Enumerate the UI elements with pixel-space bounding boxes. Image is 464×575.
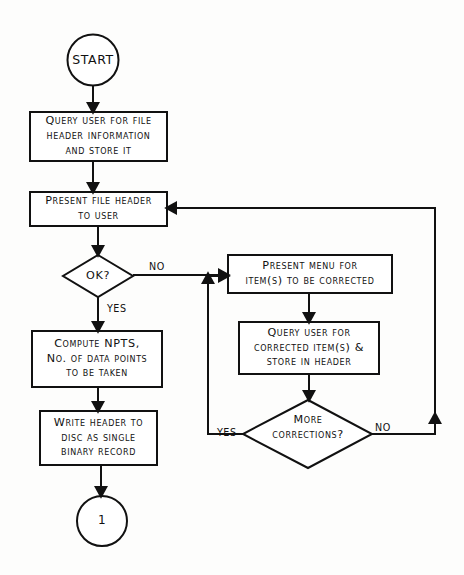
present-menu-box[interactable] xyxy=(228,255,392,293)
flowchart-page: START Query user for file header informa… xyxy=(0,0,464,575)
more-corrections-decision[interactable] xyxy=(243,400,372,468)
present-header-box[interactable] xyxy=(30,192,167,226)
ok-decision[interactable] xyxy=(63,255,133,297)
edge-more-yes-to-present-menu xyxy=(208,278,243,434)
query-header-box[interactable] xyxy=(30,112,167,161)
start-terminator[interactable] xyxy=(68,35,119,86)
connector-one[interactable] xyxy=(77,496,127,546)
compute-npts-box[interactable] xyxy=(32,331,162,387)
query-corrected-box[interactable] xyxy=(239,322,379,374)
write-header-box[interactable] xyxy=(40,411,157,465)
